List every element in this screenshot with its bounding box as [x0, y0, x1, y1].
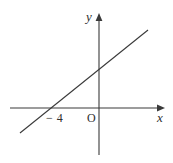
origin-label: O: [87, 112, 96, 124]
y-axis-label: y: [86, 10, 92, 23]
x-intercept-label: − 4: [46, 112, 63, 124]
plotted-line: [20, 30, 148, 133]
coordinate-plane-svg: [0, 0, 173, 163]
graph-figure: y x O − 4: [0, 0, 173, 163]
y-axis-arrowhead: [96, 13, 103, 21]
x-axis-label: x: [157, 111, 163, 124]
